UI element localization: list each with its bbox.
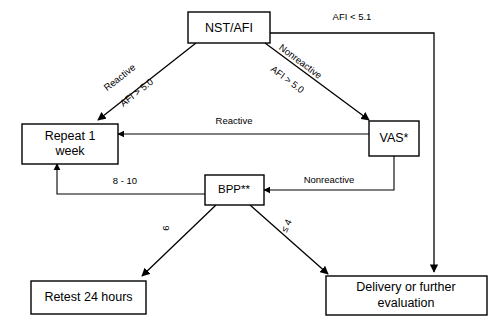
edge-nst-to-vas: Nonreactive AFI > 5.0 (265, 42, 369, 120)
node-delivery-label-line1: Delivery or further (356, 280, 455, 294)
edge-nst-to-repeat: Reactive AFI > 5.0 (98, 43, 196, 120)
edge-vas-to-bpp: Nonreactive (264, 156, 394, 190)
edge-label-bpp-to-delivery: ≤ 4 (278, 217, 294, 234)
node-bpp[interactable]: BPP** (205, 175, 264, 205)
edge-vas-to-repeat: Reactive (118, 115, 369, 134)
node-nst-afi[interactable]: NST/AFI (188, 12, 270, 43)
node-nst-afi-label: NST/AFI (205, 21, 253, 35)
flowchart-canvas: Reactive AFI > 5.0 Nonreactive AFI > 5.0… (0, 0, 492, 325)
edge-label-bpp-to-retest: 6 (160, 225, 171, 230)
edge-label-bpp-to-repeat: 8 - 10 (113, 175, 137, 186)
node-delivery-or-further-evaluation[interactable]: Delivery or further evaluation (326, 276, 487, 315)
edge-label-vas-to-repeat: Reactive (216, 115, 253, 126)
node-retest-24-hours[interactable]: Retest 24 hours (31, 281, 146, 314)
flowchart-page: Reactive AFI > 5.0 Nonreactive AFI > 5.0… (0, 0, 492, 325)
node-retest-24-hours-label: Retest 24 hours (44, 290, 132, 304)
edge-bpp-to-repeat: 8 - 10 (57, 164, 205, 194)
node-delivery-label-line2: evaluation (378, 296, 435, 310)
edge-bpp-to-retest: 6 (142, 205, 216, 276)
edge-bpp-to-delivery: ≤ 4 (250, 205, 328, 274)
node-vas[interactable]: VAS* (369, 121, 419, 156)
node-repeat-1-week-label-line1: Repeat 1 (45, 129, 96, 143)
node-vas-label: VAS* (380, 131, 409, 145)
node-repeat-1-week-label-line2: week (54, 144, 85, 158)
node-bpp-label: BPP** (218, 183, 250, 195)
edge-label-vas-to-bpp: Nonreactive (304, 174, 355, 185)
edge-label-nst-to-delivery: AFI < 5.1 (333, 11, 372, 22)
node-repeat-1-week[interactable]: Repeat 1 week (22, 124, 118, 164)
